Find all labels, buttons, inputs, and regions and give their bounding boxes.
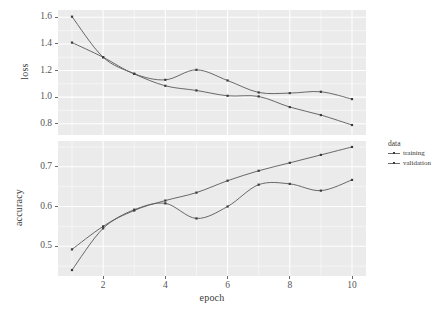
x-tick-mark <box>227 276 228 279</box>
x-tick-mark <box>289 276 290 279</box>
legend-label-training[interactable]: training <box>403 149 425 157</box>
y-tick-mark <box>55 166 58 167</box>
y-tick-mark <box>55 70 58 71</box>
x-tick-label: 2 <box>88 280 118 290</box>
y-tick-label: 1.4 <box>20 38 52 48</box>
y-tick-mark <box>55 43 58 44</box>
legend-title: data <box>388 139 401 148</box>
legend-key-validation-icon <box>387 159 401 168</box>
x-tick-label: 6 <box>213 280 243 290</box>
y-tick-mark <box>55 97 58 98</box>
y-tick-mark <box>55 17 58 18</box>
accuracy-panel <box>58 141 366 276</box>
y-tick-label: 0.5 <box>20 240 52 250</box>
y-tick-mark <box>55 123 58 124</box>
x-axis-title: epoch <box>172 292 252 303</box>
y-tick-mark <box>55 206 58 207</box>
x-tick-mark <box>352 276 353 279</box>
legend-label-validation[interactable]: validation <box>403 159 431 167</box>
x-tick-label: 4 <box>150 280 180 290</box>
x-tick-mark <box>165 276 166 279</box>
y-tick-label: 0.6 <box>20 201 52 211</box>
y-tick-label: 1.0 <box>20 91 52 101</box>
legend-key-training-icon <box>387 149 401 158</box>
y-tick-label: 1.6 <box>20 11 52 21</box>
loss-panel <box>58 10 366 135</box>
y-tick-label: 1.2 <box>20 65 52 75</box>
y-tick-mark <box>55 246 58 247</box>
chart-container: loss accuracy epoch 0.81.01.21.41.60.50.… <box>0 0 444 317</box>
y-tick-label: 0.7 <box>20 161 52 171</box>
x-tick-label: 10 <box>337 280 367 290</box>
x-tick-label: 8 <box>275 280 305 290</box>
y-tick-label: 0.8 <box>20 118 52 128</box>
x-tick-mark <box>103 276 104 279</box>
